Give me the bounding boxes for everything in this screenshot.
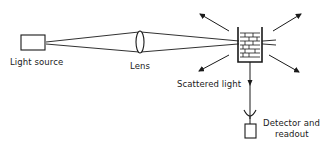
sample-cell-icon [238, 27, 262, 62]
label-lens: Lens [130, 61, 150, 71]
arrow-upper-right-icon [273, 14, 301, 31]
detector-box [245, 124, 256, 138]
arrow-lower-left-icon [199, 55, 229, 71]
arrow-upper-left-icon [200, 14, 229, 31]
down-arrow-icon [248, 80, 253, 86]
label-light-source: Light source [10, 57, 63, 67]
light-source-box [21, 35, 45, 50]
lens-icon [136, 31, 144, 53]
label-detector-line2: readout [275, 129, 309, 139]
label-scattered-light: Scattered light [177, 79, 241, 89]
label-detector-line1: Detector and [263, 118, 320, 128]
arrow-lower-right-icon [269, 55, 299, 72]
